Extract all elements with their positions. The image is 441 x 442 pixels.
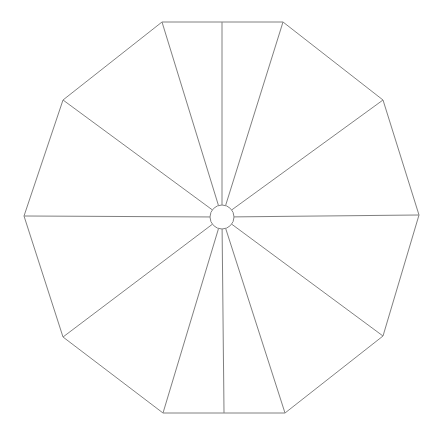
spoke-to-left [24,216,210,217]
spoke-to-bottom-left [163,228,219,413]
canopy-hub-group [210,205,234,229]
spoke-to-upper-right [232,100,383,210]
spoke-to-top-right [226,22,283,206]
figure-canvas [0,0,441,442]
spoke-to-upper-left [63,100,212,210]
center-hub-circle [210,205,234,229]
umbrella-canopy-diagram [0,0,441,442]
spoke-to-bottom-right [226,228,285,413]
spoke-to-lower-left [63,224,212,337]
spoke-to-right [234,215,419,217]
spoke-to-top-left [162,22,218,206]
spoke-to-bottom-mid [222,229,224,413]
